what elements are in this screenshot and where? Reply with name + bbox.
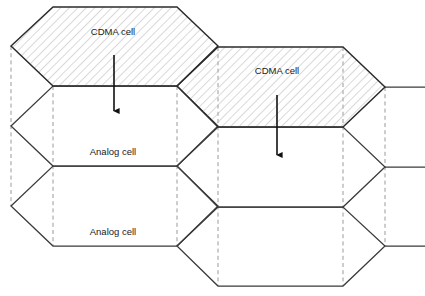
cdma-hexagon: [177, 47, 385, 127]
analog-cell-label: Analog cell: [90, 226, 136, 237]
cellular-grid-svg: CDMA cell CDMA cell Analog cell Analog c…: [0, 0, 425, 296]
cell-overlay-diagram: CDMA cell CDMA cell Analog cell Analog c…: [0, 0, 425, 296]
cdma-cell-group: [11, 7, 385, 127]
analog-cell-label: Analog cell: [90, 146, 136, 157]
boundary-stub-group: [385, 87, 425, 246]
analog-hexagon: [177, 127, 385, 207]
cdma-cell-label: CDMA cell: [91, 26, 135, 37]
analog-hexagon: [177, 207, 385, 286]
cdma-cell-label: CDMA cell: [255, 65, 299, 76]
